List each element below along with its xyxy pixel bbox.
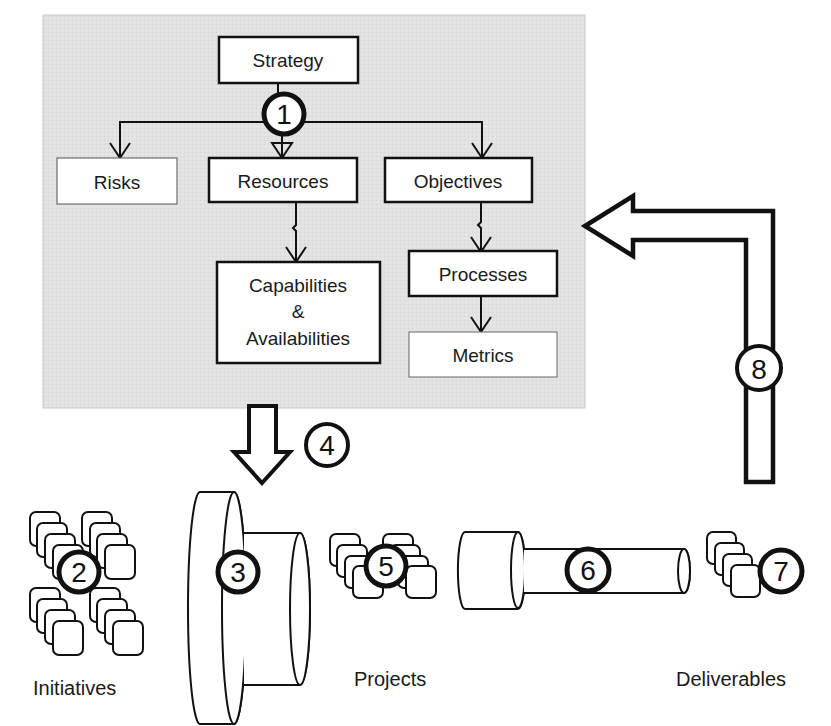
svg-text:Availabilities: Availabilities	[246, 328, 350, 349]
node-processes: Processes	[409, 251, 557, 296]
svg-text:8: 8	[751, 354, 767, 385]
node-risks: Risks	[57, 158, 177, 204]
svg-text:4: 4	[319, 430, 335, 461]
node-resources: Resources	[209, 158, 357, 202]
marker-6: 6	[567, 549, 609, 591]
svg-text:Resources: Resources	[238, 171, 329, 192]
marker-1: 1	[264, 94, 304, 134]
node-objectives: Objectives	[385, 158, 532, 202]
svg-text:6: 6	[580, 555, 596, 586]
svg-text:Risks: Risks	[94, 172, 140, 193]
label-projects: Projects	[354, 668, 426, 691]
svg-text:3: 3	[230, 557, 246, 588]
down-arrow	[234, 406, 290, 483]
svg-text:5: 5	[378, 551, 394, 582]
svg-text:Capabilities: Capabilities	[249, 275, 347, 296]
funnel-cylinder	[188, 492, 310, 724]
marker-8: 8	[737, 346, 781, 390]
svg-text:2: 2	[71, 557, 87, 588]
label-deliverables: Deliverables	[676, 668, 786, 691]
svg-text:&: &	[292, 301, 305, 322]
svg-text:7: 7	[773, 556, 789, 587]
deliverables-cards	[707, 532, 760, 597]
node-capabilities: Capabilities & Availabilities	[217, 262, 380, 363]
marker-5: 5	[366, 546, 406, 586]
marker-3: 3	[218, 552, 258, 592]
node-metrics: Metrics	[409, 332, 557, 377]
feedback-arrow	[585, 196, 773, 482]
svg-text:Objectives: Objectives	[414, 171, 503, 192]
svg-text:Metrics: Metrics	[452, 345, 513, 366]
marker-4: 4	[306, 424, 348, 466]
strategy-diagram: Strategy Risks Resources Objectives Capa…	[0, 0, 831, 726]
node-strategy: Strategy	[219, 37, 358, 83]
svg-text:Strategy: Strategy	[253, 50, 324, 71]
label-initiatives: Initiatives	[33, 677, 116, 700]
svg-text:1: 1	[276, 99, 292, 130]
marker-2: 2	[59, 552, 99, 592]
svg-text:Processes: Processes	[439, 264, 528, 285]
marker-7: 7	[760, 550, 802, 592]
